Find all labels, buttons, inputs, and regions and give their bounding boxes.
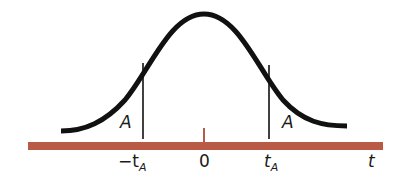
pos-t-subscript: A [271, 161, 279, 174]
t-axis [28, 142, 383, 150]
axis-variable-label: t [368, 153, 375, 170]
zero-label: 0 [199, 153, 210, 170]
left-tail-area-label: A [120, 114, 132, 131]
neg-t-subscript: A [139, 161, 147, 174]
pos-critical-value-label: tA [264, 153, 278, 170]
neg-t-main: −t [118, 151, 139, 171]
zero-tick [203, 128, 205, 143]
bell-curve [61, 14, 347, 131]
pos-t-main: t [264, 151, 271, 171]
right-tail-area-label: A [282, 114, 294, 131]
neg-critical-value-label: −tA [118, 153, 146, 170]
